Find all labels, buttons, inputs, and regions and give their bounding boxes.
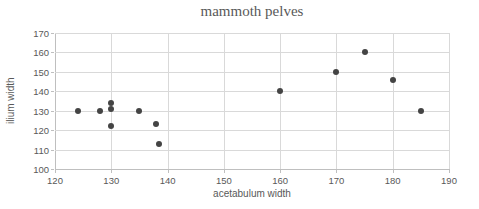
x-tick-label: 170 bbox=[321, 175, 351, 186]
h-gridline bbox=[55, 33, 449, 34]
v-gridline bbox=[449, 33, 450, 169]
x-axis-title: acetabulum width bbox=[55, 188, 449, 199]
y-axis-tick bbox=[51, 150, 54, 151]
y-tick-label: 130 bbox=[21, 106, 49, 117]
y-tick-label: 150 bbox=[21, 67, 49, 78]
y-axis-tick bbox=[51, 130, 54, 131]
h-gridline bbox=[55, 150, 449, 151]
h-gridline bbox=[55, 72, 449, 73]
y-axis-tick bbox=[51, 169, 54, 170]
x-tick-label: 190 bbox=[434, 175, 464, 186]
data-point bbox=[97, 108, 103, 114]
data-point bbox=[390, 77, 396, 83]
h-gridline bbox=[55, 111, 449, 112]
x-axis-tick bbox=[168, 170, 169, 173]
y-axis-tick bbox=[51, 72, 54, 73]
x-axis-tick bbox=[55, 170, 56, 173]
y-axis-title: ilium width bbox=[3, 33, 17, 169]
x-tick-label: 120 bbox=[40, 175, 70, 186]
data-point bbox=[418, 108, 424, 114]
y-tick-label: 140 bbox=[21, 86, 49, 97]
x-axis-tick bbox=[224, 170, 225, 173]
h-gridline bbox=[55, 91, 449, 92]
x-axis-tick bbox=[449, 170, 450, 173]
h-gridline bbox=[55, 52, 449, 53]
y-axis-tick bbox=[51, 33, 54, 34]
y-tick-label: 100 bbox=[21, 164, 49, 175]
y-axis-tick bbox=[51, 91, 54, 92]
x-tick-label: 180 bbox=[378, 175, 408, 186]
y-tick-label: 120 bbox=[21, 125, 49, 136]
y-tick-label: 160 bbox=[21, 47, 49, 58]
y-tick-label: 110 bbox=[21, 145, 49, 156]
chart-title: mammoth pelves bbox=[55, 3, 449, 20]
y-axis-tick bbox=[51, 52, 54, 53]
x-tick-label: 160 bbox=[265, 175, 295, 186]
data-point bbox=[75, 108, 81, 114]
x-tick-label: 140 bbox=[153, 175, 183, 186]
x-axis-tick bbox=[280, 170, 281, 173]
x-tick-label: 130 bbox=[96, 175, 126, 186]
x-axis-tick bbox=[111, 170, 112, 173]
x-axis-tick bbox=[336, 170, 337, 173]
y-axis-tick bbox=[51, 111, 54, 112]
y-tick-label: 170 bbox=[21, 28, 49, 39]
x-axis-tick bbox=[393, 170, 394, 173]
scatter-chart: mammoth pelves ilium width acetabulum wi… bbox=[0, 0, 479, 209]
data-point bbox=[156, 141, 162, 147]
h-gridline bbox=[55, 130, 449, 131]
x-tick-label: 150 bbox=[209, 175, 239, 186]
